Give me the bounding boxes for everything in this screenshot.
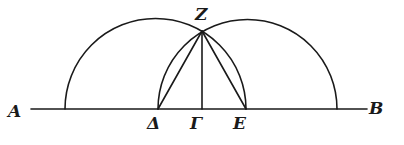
label-Gamma: Γ [189,113,204,133]
label-A: A [6,101,21,121]
geometry-diagram: A B Z Δ Γ E [0,0,404,145]
label-Z: Z [194,4,208,24]
line-Z-E [202,31,246,109]
arc-right-semicircle [158,20,337,109]
arc-left-semicircle [65,19,246,109]
label-B: B [368,98,383,118]
label-E: E [232,113,247,133]
line-Z-Delta [158,31,202,109]
label-Delta: Δ [146,113,160,133]
